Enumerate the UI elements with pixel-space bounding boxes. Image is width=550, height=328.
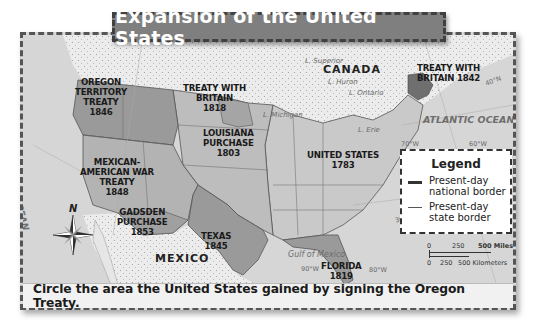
label-lake-michigan: L. Michigan [263,111,303,119]
label-oregon-territory: OREGONTERRITORYTREATY1846 [75,77,127,117]
label-united-states-1783: UNITED STATES1783 [307,150,379,170]
legend-item-state-border: Present-daystate border [408,201,510,223]
label-gadsden-purchase: GADSDENPURCHASE1853 [117,207,168,237]
label-lake-huron: L. Huron [328,78,358,86]
map-title-banner: Expansion of the United States [112,12,446,42]
legend-box: Legend Present-daynational border Presen… [400,149,512,234]
label-florida: FLORIDA1819 [321,261,362,281]
coord-80w: 80°W [369,266,387,274]
label-mexican-american-war: MEXICAN-AMERICAN WARTREATY1848 [80,157,154,197]
compass-rose: N [51,203,95,255]
label-lake-ontario: L. Ontario [349,89,383,97]
state-border-swatch-icon [408,207,422,208]
coord-90w: 90°W [301,265,319,273]
label-britain-1818: TREATY WITHBRITAIN1818 [183,83,246,113]
legend-title: Legend [402,157,510,171]
national-border-swatch-icon [408,181,422,184]
label-britain-1842: TREATY WITHBRITAIN 1842 [417,63,480,83]
legend-item-national-border: Present-daynational border [408,175,510,197]
compass-star-icon [51,213,95,257]
label-texas: TEXAS1845 [201,231,231,251]
coord-70w: 70°W [401,140,419,148]
scale-bar: 0 250 500 Miles 0 250 500 Kilometers [420,242,516,276]
label-mexico: MEXICO [155,252,209,265]
label-gulf-of-mexico: Gulf of Mexico [288,250,345,259]
label-lake-superior: L. Superior [305,57,343,65]
label-louisiana-purchase: LOUISIANAPURCHASE1803 [203,128,254,158]
label-atlantic-ocean: ATLANTIC OCEAN [423,114,514,125]
question-caption: Circle the area the United States gained… [33,282,513,310]
question-caption-bar: Circle the area the United States gained… [23,283,513,308]
coord-60w: 60°W [469,140,487,148]
map-title: Expansion of the United States [115,5,443,49]
label-lake-erie: L. Erie [358,126,380,134]
